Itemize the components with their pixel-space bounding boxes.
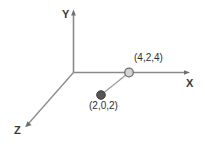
x-axis-arrowhead-icon [184, 70, 190, 75]
z-axis-line [29, 73, 74, 124]
data-point-label-upper: (4,2,4) [134, 53, 163, 63]
y-axis-label: Y [62, 9, 69, 20]
data-point-label-lower: (2,0,2) [89, 101, 118, 111]
y-axis-arrowhead-icon [71, 10, 76, 16]
z-axis-label: Z [14, 125, 21, 136]
point-connector-line [101, 73, 129, 96]
z-axis [25, 73, 73, 128]
coordinate-diagram: Y X Z (4,2,4) (2,0,2) [0, 0, 205, 146]
axes-drawing [0, 0, 205, 146]
x-axis-label: X [186, 78, 193, 89]
y-axis [71, 10, 76, 73]
data-point-marker-open [125, 68, 134, 77]
z-axis-arrowhead-icon [25, 121, 31, 127]
data-point-marker-filled [97, 91, 106, 100]
